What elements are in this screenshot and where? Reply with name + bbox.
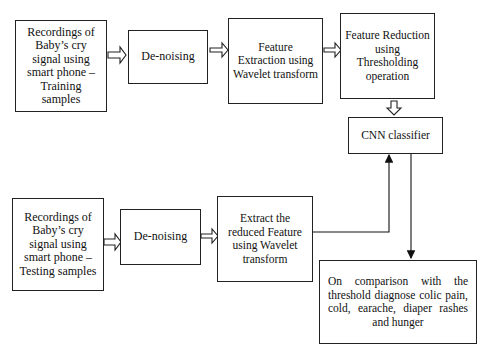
- feature-reduction-box: Feature Reduction using Thresholding ope…: [340, 13, 435, 99]
- arrow-right-icon: [210, 43, 228, 57]
- training-denoise-box: De-noising: [128, 30, 208, 84]
- feature-extraction-label: Feature Extraction using Wavelet transfo…: [233, 41, 318, 82]
- cnn-classifier-box: CNN classifier: [348, 117, 443, 154]
- arrow-down-icon: [387, 101, 401, 115]
- arrow-right-icon: [108, 47, 126, 63]
- arrow-to-classifier: [312, 155, 389, 232]
- cnn-classifier-label: CNN classifier: [361, 129, 430, 143]
- feature-reduction-label: Feature Reduction using Thresholding ope…: [345, 29, 430, 83]
- diagnosis-output-box: On comparison with the threshold diagnos…: [319, 260, 477, 344]
- feature-extraction-box: Feature Extraction using Wavelet transfo…: [228, 18, 323, 104]
- testing-denoise-label: De-noising: [134, 230, 187, 244]
- reduced-feature-extraction-box: Extract the reduced Feature using Wavele…: [217, 196, 313, 282]
- diagnosis-output-label: On comparison with the threshold diagnos…: [328, 275, 468, 329]
- testing-recording-label: Recordings of Baby’s cry signal using sm…: [17, 211, 99, 279]
- reduced-feature-extraction-label: Extract the reduced Feature using Wavele…: [222, 212, 308, 266]
- training-recording-label: Recordings of Baby’s cry signal using sm…: [20, 26, 102, 107]
- testing-recording-box: Recordings of Baby’s cry signal using sm…: [12, 198, 104, 291]
- training-denoise-label: De-noising: [141, 50, 194, 64]
- arrow-right-icon: [324, 43, 341, 57]
- arrow-right-icon: [201, 229, 218, 243]
- training-recording-box: Recordings of Baby’s cry signal using sm…: [15, 20, 107, 112]
- testing-denoise-box: De-noising: [120, 209, 201, 265]
- arrow-right-icon: [104, 234, 121, 250]
